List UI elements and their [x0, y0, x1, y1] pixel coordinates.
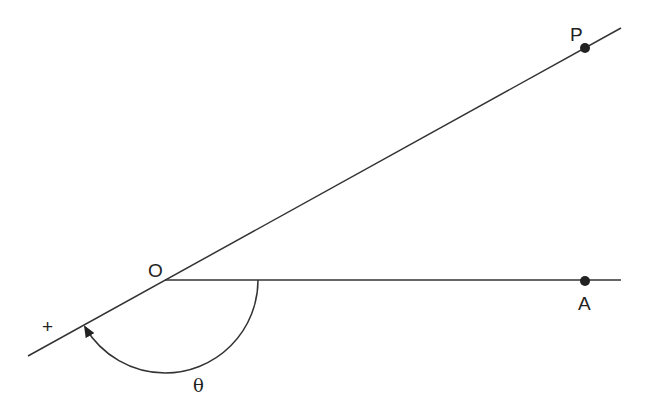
angle-arc-arrow [85, 280, 258, 373]
point-a-dot [580, 276, 590, 286]
point-a-label: A [578, 293, 591, 314]
ray-op-line [28, 28, 621, 356]
theta-label: θ [193, 375, 204, 396]
origin-label: O [148, 260, 163, 281]
point-p-label: P [570, 24, 583, 45]
polar-angle-diagram: P A O + θ [0, 0, 651, 417]
positive-direction-label: + [42, 316, 53, 337]
